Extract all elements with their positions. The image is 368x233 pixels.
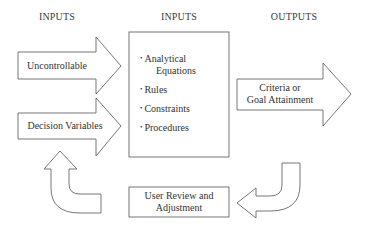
review-label-line2: Adjustment <box>156 202 203 213</box>
curved-arrow-up-icon <box>44 151 101 213</box>
item-text: Analytical <box>144 53 186 64</box>
list-item: •Rules <box>140 83 196 96</box>
item-text: Rules <box>144 84 167 95</box>
uncontrollable-label: Uncontrollable <box>18 60 96 72</box>
output-label-line2: Goal Attainment <box>247 94 313 105</box>
decision-variables-label: Decision Variables <box>18 120 112 132</box>
item-text: Constraints <box>144 103 190 114</box>
list-item: •Constraints <box>140 102 196 115</box>
header-inputs-left: INPUTS <box>22 11 92 22</box>
header-outputs: OUTPUTS <box>254 11 334 22</box>
review-label-line1: User Review and <box>145 190 214 201</box>
list-item: •AnalyticalEquations <box>140 52 196 77</box>
item-text-cont: Equations <box>148 65 196 76</box>
bullet-icon: • <box>140 123 142 131</box>
header-inputs-center: INPUTS <box>144 11 214 22</box>
decision-model-diagram: INPUTS INPUTS OUTPUTS Uncontrollable Dec… <box>0 0 368 233</box>
bullet-icon: • <box>140 104 142 112</box>
item-text: Procedures <box>144 122 188 133</box>
review-label: User Review and Adjustment <box>129 190 229 214</box>
model-box-list: •AnalyticalEquations •Rules •Constraints… <box>140 52 196 140</box>
curved-arrow-down-left-icon <box>237 163 300 218</box>
list-item: •Procedures <box>140 121 196 134</box>
output-label: Criteria or Goal Attainment <box>237 82 323 106</box>
bullet-icon: • <box>140 85 142 93</box>
bullet-icon: • <box>140 54 142 62</box>
output-label-line1: Criteria or <box>259 82 300 93</box>
